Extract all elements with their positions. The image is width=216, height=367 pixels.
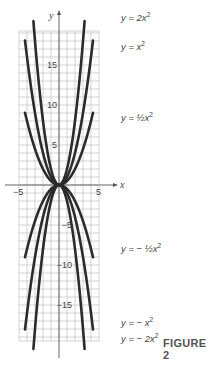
equation-labels: y = 2x2y = x2y = ½x2y = − ½x2y = − x2y =… (120, 11, 161, 344)
y-tick-label: −10 (57, 260, 72, 270)
y-tick-label: 10 (47, 100, 57, 110)
equation-label: y = x2 (120, 40, 145, 52)
equation-label: y = ½x2 (120, 111, 153, 123)
y-tick-label: −5 (62, 220, 72, 230)
equation-label: y = − ½x2 (120, 242, 161, 254)
y-tick-label: −15 (57, 300, 72, 310)
y-tick-label: 15 (47, 60, 57, 70)
y-tick-label: 5 (52, 140, 57, 150)
x-axis-label: x (119, 179, 125, 190)
x-tick-label: 5 (96, 187, 101, 197)
equation-label: y = − x2 (120, 316, 154, 328)
equation-label: y = 2x2 (120, 11, 151, 23)
y-axis-arrow-icon (57, 10, 61, 15)
figure-caption: FIGURE 2 (163, 337, 216, 361)
x-tick-label: −5 (13, 187, 23, 197)
equation-label: y = − 2x2 (120, 332, 159, 344)
y-axis-label: y (48, 10, 54, 21)
x-axis-arrow-icon (113, 183, 118, 187)
parabola-family-graph: xy −5515105−5−10−15 y = 2x2y = x2y = ½x2… (0, 0, 216, 367)
